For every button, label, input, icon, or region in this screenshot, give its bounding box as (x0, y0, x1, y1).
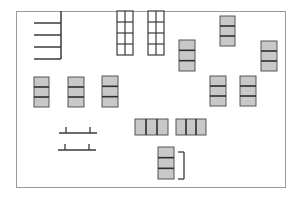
shelf-block-horizontal (135, 119, 168, 135)
shelf-block-vertical (240, 76, 256, 106)
shelf-block-vertical (102, 76, 118, 107)
ladder-grid (148, 11, 164, 55)
ladder-grid (117, 11, 133, 55)
shelf-block-vertical (34, 77, 49, 107)
shelf-block-vertical (220, 16, 235, 46)
comb-rack (34, 11, 61, 59)
shelf-block-vertical (261, 41, 277, 71)
floor-plan-diagram (0, 0, 290, 197)
bench-lines (58, 127, 97, 150)
shelf-block-horizontal (176, 119, 206, 135)
horizontal-shelf-blocks (135, 119, 206, 135)
bench (59, 127, 97, 133)
shelf-block-vertical (179, 40, 195, 71)
shelf-block-vertical (68, 77, 84, 107)
shelf-block-vertical (210, 76, 226, 106)
bench (58, 144, 96, 150)
shelf-block-vertical (158, 147, 174, 179)
ladder-grid-racks (117, 11, 164, 55)
wall-bracket (178, 152, 184, 179)
